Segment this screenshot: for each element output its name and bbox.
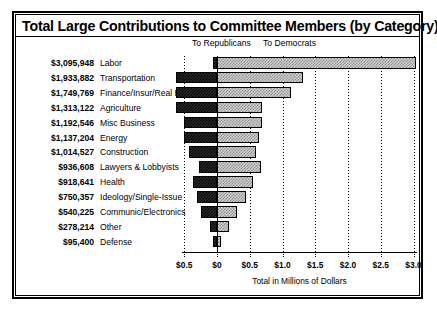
chart-row: $1,933,882Transportation [0,72,437,87]
chart-row: $3,095,948Labor [0,57,437,72]
chart-row: $750,357Ideology/Single-Issue [0,191,437,206]
bar-democrat [217,161,261,173]
row-category-label: Construction [100,147,148,157]
tick-mark-2 [250,252,251,257]
chart-row: $1,137,204Energy [0,132,437,147]
row-total-amount: $1,313,122 [24,103,94,113]
bar-democrat [217,57,416,69]
bar-republican [176,87,217,99]
chart-row: $918,641Health [0,176,437,191]
bar-democrat [217,132,259,144]
row-total-amount: $95,400 [24,237,94,247]
row-category-label: Lawyers & Lobbyists [100,162,179,172]
chart-legend: To Republicans To Democrats [0,38,437,50]
row-total-amount: $918,641 [24,177,94,187]
bar-democrat [217,236,221,248]
bar-democrat [217,206,237,218]
tick-mark-0 [184,252,185,257]
row-category-label: Health [100,177,125,187]
bar-democrat [217,72,303,84]
row-category-label: Other [100,222,122,232]
bar-republican [189,146,217,158]
row-total-amount: $1,933,882 [24,73,94,83]
tick-mark-6 [381,252,382,257]
tick-mark-5 [348,252,349,257]
row-total-amount: $1,192,546 [24,118,94,128]
chart-row: $95,400Defense [0,236,437,251]
row-total-amount: $540,225 [24,207,94,217]
row-category-label: Defense [100,237,132,247]
bar-democrat [217,117,262,129]
bar-democrat [217,176,253,188]
chart-row: $1,192,546Misc Business [0,117,437,132]
tick-label-4: $1.5 [307,260,323,270]
chart-row: $936,608Lawyers & Lobbyists [0,161,437,176]
bar-democrat [217,102,262,114]
bar-rows: $3,095,948Labor$1,933,882Transportation$… [0,56,437,252]
bar-republican [193,176,217,188]
chart-row: $1,749,769Finance/Insur/Real Est [0,87,437,102]
row-category-label: Energy [100,133,127,143]
chart-row: $278,214Other [0,221,437,236]
tick-label-7: $3.0 [405,260,421,270]
tick-label-3: $1.0 [274,260,290,270]
row-total-amount: $750,357 [24,192,94,202]
bar-republican [184,132,217,144]
tick-label-6: $2.5 [373,260,389,270]
row-category-label: Misc Business [100,118,155,128]
row-total-amount: $3,095,948 [24,58,94,68]
bar-democrat [217,191,246,203]
row-category-label: Finance/Insur/Real Est [100,88,187,98]
bar-democrat [217,87,291,99]
row-total-amount: $1,749,769 [24,88,94,98]
chart-title: Total Large Contributions to Committee M… [22,18,416,34]
bar-democrat [217,221,229,233]
legend-label-democrats: To Democrats [263,38,316,48]
tick-label-2: $0.5 [242,260,258,270]
row-total-amount: $1,014,527 [24,147,94,157]
title-divider [16,36,419,37]
tick-mark-1 [217,252,218,257]
tick-label-1: $0 [212,260,221,270]
row-category-label: Labor [100,58,122,68]
bar-republican [199,161,217,173]
tick-mark-3 [283,252,284,257]
legend-label-republicans: To Republicans [192,38,251,48]
chart-row: $540,225Communic/Electronics [0,206,437,221]
row-category-label: Transportation [100,73,155,83]
chart-row: $1,014,527Construction [0,146,437,161]
tick-label-5: $2.0 [340,260,356,270]
tick-mark-7 [414,252,415,257]
bar-republican [197,191,217,203]
tick-label-0: $0.5 [176,260,192,270]
bar-republican [184,117,217,129]
row-total-amount: $936,608 [24,162,94,172]
tick-mark-4 [315,252,316,257]
chart-screenshot: Total Large Contributions to Committee M… [0,0,437,314]
bar-republican [210,221,217,233]
bar-republican [176,102,217,114]
row-total-amount: $1,137,204 [24,133,94,143]
x-axis-title: Total in Millions of Dollars [182,276,417,286]
bar-republican [176,72,217,84]
chart-row: $1,313,122Agriculture [0,102,437,117]
row-category-label: Ideology/Single-Issue [100,192,182,202]
row-category-label: Communic/Electronics [100,207,185,217]
row-total-amount: $278,214 [24,222,94,232]
bar-democrat [217,146,256,158]
bar-republican [201,206,217,218]
row-category-label: Agriculture [100,103,141,113]
